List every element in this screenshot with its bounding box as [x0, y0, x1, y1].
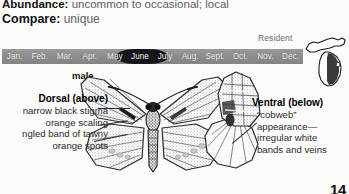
- ventral-note-2: irregular white: [252, 132, 349, 144]
- right-eye: [155, 104, 161, 110]
- ventral-note-1: appearance—: [252, 121, 349, 133]
- abundance-value: uncommon to occasional; local: [72, 0, 229, 10]
- ventral-heading: Ventral (below): [252, 97, 349, 109]
- page-number: 14: [330, 181, 346, 194]
- dorsal-note-0: narrow black stigma: [0, 105, 108, 117]
- compare-label: Compare:: [2, 12, 60, 26]
- flight-period-bar: Jan.Feb.Mar.Apr.MayJuneJulyAug.Sept.Oct.…: [2, 49, 303, 64]
- dorsal-note-1: orange scaling: [0, 117, 108, 129]
- abundance-label: Abundance:: [2, 0, 68, 10]
- month-label-july: July: [152, 49, 177, 64]
- abdomen: [148, 130, 158, 172]
- dorsal-annotation: Dorsal (above) narrow black stigma orang…: [0, 93, 108, 151]
- month-label-may: May: [102, 49, 127, 64]
- upper-peninsula-shape: [306, 38, 345, 52]
- michigan-range-map: [304, 33, 348, 89]
- dorsal-note-2: ngled band of tawny: [0, 128, 108, 140]
- month-label-sept: Sept.: [203, 49, 228, 64]
- dorsal-note-3: orange spots: [0, 140, 108, 152]
- dorsal-heading: Dorsal (above): [0, 93, 108, 105]
- month-label-apr: Apr.: [77, 49, 102, 64]
- ventral-note-0: “cobweb”: [252, 109, 349, 121]
- month-labels-row: Jan.Feb.Mar.Apr.MayJuneJulyAug.Sept.Oct.…: [2, 49, 303, 64]
- ventral-body: [226, 114, 234, 126]
- compare-line: Compare: unique: [2, 12, 100, 26]
- month-label-dec: Dec.: [278, 49, 303, 64]
- month-label-june: June: [127, 49, 152, 64]
- left-eye: [146, 104, 152, 110]
- saginaw-bay-detail: [336, 62, 340, 67]
- compare-value: unique: [64, 12, 100, 26]
- ventral-annotation: Ventral (below) “cobweb” appearance— irr…: [252, 97, 349, 155]
- month-label-aug: Aug.: [178, 49, 203, 64]
- resident-label: Resident: [258, 33, 292, 43]
- abundance-line: Abundance: uncommon to occasional; local: [2, 0, 229, 10]
- month-label-feb: Feb.: [27, 49, 52, 64]
- month-label-jan: Jan.: [2, 49, 27, 64]
- thorax: [146, 109, 160, 131]
- month-label-nov: Nov.: [253, 49, 278, 64]
- month-label-oct: Oct.: [228, 49, 253, 64]
- field-guide-page: Abundance: uncommon to occasional; local…: [0, 0, 349, 194]
- month-label-mar: Mar.: [52, 49, 77, 64]
- ventral-note-3: bands and veins: [252, 144, 349, 156]
- leader-line-stigma: [98, 108, 130, 109]
